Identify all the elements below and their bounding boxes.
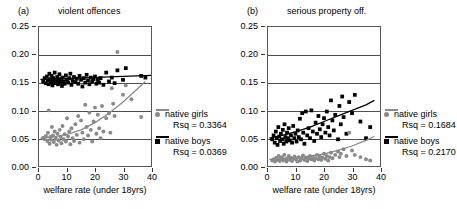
x-tick-3: 30 xyxy=(118,173,128,182)
panel-b-x-axis-title: welfare rate (under 18yrs) xyxy=(267,185,381,195)
panel-b-plot-area xyxy=(267,26,381,167)
panel-a-y-axis: 0.00 0.05 0.10 0.15 0.20 0.25 xyxy=(0,26,36,167)
x-tick-0: 0 xyxy=(264,173,269,182)
x-tick-2: 20 xyxy=(319,173,329,182)
data-point-native-girls xyxy=(110,86,114,90)
data-point-native-girls xyxy=(111,102,115,106)
legend-rsq-girls: Rsq = 0.3364 xyxy=(155,120,229,131)
data-point-native-boys xyxy=(326,125,330,129)
fit-line-native-boys xyxy=(269,100,374,138)
data-point-native-girls xyxy=(113,114,117,118)
data-point-native-girls xyxy=(48,142,52,146)
square-marker-icon xyxy=(384,139,389,144)
data-point-native-boys xyxy=(292,136,296,140)
data-point-native-girls xyxy=(89,128,93,132)
data-point-native-girls xyxy=(347,131,351,135)
data-point-native-girls xyxy=(86,133,90,137)
data-point-native-boys xyxy=(284,140,288,144)
data-point-native-girls xyxy=(330,156,334,160)
data-point-native-girls xyxy=(364,157,368,161)
data-point-native-girls xyxy=(100,104,104,108)
data-point-native-boys xyxy=(322,116,326,120)
panel-b-x-axis: 0 10 20 30 40 xyxy=(267,168,381,184)
y-tick-5: 0.25 xyxy=(240,22,258,31)
square-marker-icon xyxy=(155,139,160,144)
legend-entry-girls: native girls Rsq = 0.3364 xyxy=(155,109,229,131)
legend-rsq-girls: Rsq = 0.1684 xyxy=(384,120,457,131)
data-point-native-boys xyxy=(298,117,302,121)
data-point-native-boys xyxy=(336,137,340,141)
data-point-native-boys xyxy=(121,78,125,82)
y-tick-5: 0.25 xyxy=(11,22,29,31)
data-point-native-boys xyxy=(338,104,342,108)
y-tick-3: 0.15 xyxy=(11,78,29,87)
x-tick-1: 10 xyxy=(61,173,71,182)
data-point-native-girls xyxy=(76,114,80,118)
data-point-native-boys xyxy=(311,130,315,134)
data-point-native-girls xyxy=(350,148,354,152)
data-point-native-girls xyxy=(46,131,50,135)
data-point-native-girls xyxy=(353,153,357,157)
data-point-native-girls xyxy=(56,132,60,136)
data-point-native-boys xyxy=(317,114,321,118)
panel-a-x-axis: 0 10 20 30 40 xyxy=(38,168,152,184)
data-point-native-boys xyxy=(299,137,303,141)
y-tick-3: 0.15 xyxy=(240,78,258,87)
data-point-native-boys xyxy=(58,80,62,84)
x-tick-3: 30 xyxy=(347,173,357,182)
data-point-native-boys xyxy=(318,127,322,131)
data-point-native-girls xyxy=(73,122,77,126)
data-point-native-boys xyxy=(340,95,344,99)
data-point-native-girls xyxy=(344,154,348,158)
data-point-native-boys xyxy=(332,129,336,133)
data-point-native-boys xyxy=(291,124,295,128)
data-point-native-boys xyxy=(58,72,62,76)
data-point-native-boys xyxy=(290,141,294,145)
y-tick-mark-3 xyxy=(261,82,265,83)
panel-b-header: (b) serious property off. xyxy=(229,4,457,22)
x-tick-0: 0 xyxy=(35,173,40,182)
data-point-native-girls xyxy=(97,126,101,130)
data-point-native-boys xyxy=(304,110,308,114)
data-point-native-girls xyxy=(129,97,133,101)
data-point-native-girls xyxy=(66,135,70,139)
y-tick-mark-0 xyxy=(261,167,265,168)
data-point-native-boys xyxy=(353,93,357,97)
panel-b-legend: native girls Rsq = 0.1684 native boys Rs… xyxy=(384,105,457,163)
y-tick-4: 0.20 xyxy=(240,50,258,59)
data-point-native-boys xyxy=(85,73,89,77)
y-tick-mark-5 xyxy=(261,26,265,27)
data-point-native-girls xyxy=(79,118,83,122)
legend-label-boys-row: native boys xyxy=(384,136,457,147)
legend-entry-girls: native girls Rsq = 0.1684 xyxy=(384,109,457,131)
data-point-native-boys xyxy=(310,109,314,113)
data-point-native-girls xyxy=(104,116,108,120)
y-tick-0: 0.00 xyxy=(11,163,29,172)
data-point-native-boys xyxy=(281,128,285,132)
data-point-native-girls xyxy=(90,140,94,144)
data-point-native-boys xyxy=(81,85,85,89)
panel-a-legend: native girls Rsq = 0.3364 native boys Rs… xyxy=(155,105,229,163)
data-point-native-girls xyxy=(124,83,128,87)
data-point-native-girls xyxy=(64,140,68,144)
data-point-native-girls xyxy=(368,158,372,162)
x-tick-4: 40 xyxy=(147,173,157,182)
data-point-native-boys xyxy=(66,81,70,85)
data-point-native-boys xyxy=(347,100,351,104)
y-tick-mark-3 xyxy=(32,82,36,83)
data-point-native-boys xyxy=(342,115,346,119)
data-point-native-boys xyxy=(319,135,323,139)
legend-label-girls-row: native girls xyxy=(155,109,229,120)
data-point-native-girls xyxy=(282,153,286,157)
panel-a-plot-area xyxy=(38,26,152,167)
data-point-native-girls xyxy=(68,142,72,146)
data-point-native-girls xyxy=(61,124,65,128)
legend-rsq-boys: Rsq = 0.2170 xyxy=(384,147,457,158)
data-point-native-girls xyxy=(93,106,97,110)
data-point-native-girls xyxy=(339,152,343,156)
data-point-native-boys xyxy=(289,134,293,138)
data-point-native-boys xyxy=(274,130,278,134)
data-point-native-boys xyxy=(295,140,299,144)
y-tick-1: 0.05 xyxy=(11,134,29,143)
data-point-native-girls xyxy=(101,130,105,134)
